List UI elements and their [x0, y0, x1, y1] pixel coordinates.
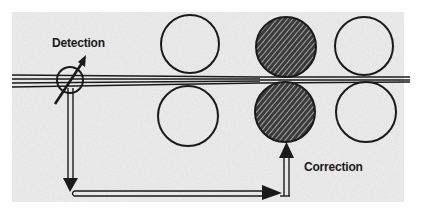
- diagram-svg: [0, 0, 436, 212]
- correction-label: Correction: [304, 160, 363, 174]
- detection-label: Detection: [52, 36, 105, 50]
- diagram-canvas: Detection Correction: [0, 0, 436, 212]
- top-roll-2-hatched: [256, 17, 316, 77]
- bottom-roll-2-hatched: [255, 82, 315, 142]
